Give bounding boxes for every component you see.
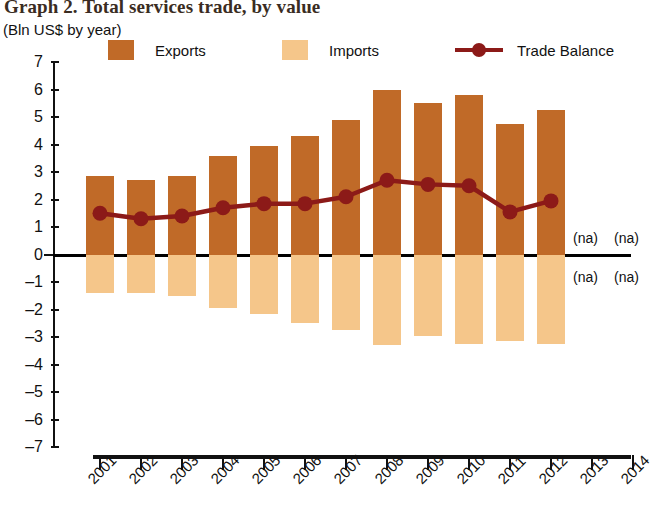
y-tick-label--7: –7 xyxy=(9,439,43,455)
chart-legend: Exports Imports Trade Balance xyxy=(0,38,644,62)
y-tick-label-2: 2 xyxy=(9,192,43,208)
legend-swatch-trade-balance xyxy=(455,40,503,60)
legend-label-imports: Imports xyxy=(329,42,379,59)
trade-balance-marker-2004 xyxy=(216,200,231,215)
trade-balance-marker-2007 xyxy=(339,189,354,204)
trade-balance-marker-2010 xyxy=(462,178,477,193)
legend-marker-dot xyxy=(472,43,486,57)
legend-label-exports: Exports xyxy=(155,42,206,59)
y-tick-label-4: 4 xyxy=(9,137,43,153)
trade-balance-marker-2006 xyxy=(298,196,313,211)
trade-balance-polyline xyxy=(100,180,551,219)
trade-balance-marker-2009 xyxy=(421,177,436,192)
y-tick-label-6: 6 xyxy=(9,82,43,98)
chart-plot-area: 76543210–1–2–3–4–5–6–7 (na)(na)(na)(na) xyxy=(53,62,631,447)
y-tick-label-5: 5 xyxy=(9,109,43,125)
trade-balance-marker-2002 xyxy=(134,211,149,226)
na-label-2013-above-zero: (na) xyxy=(573,230,598,246)
y-tick-label-3: 3 xyxy=(9,164,43,180)
na-label-2014-below-zero: (na) xyxy=(614,269,639,285)
legend-item-imports: Imports xyxy=(282,38,379,62)
y-tick-label-7: 7 xyxy=(9,54,43,70)
y-tick-label--5: –5 xyxy=(9,384,43,400)
y-tick-label--2: –2 xyxy=(9,302,43,318)
y-tick-label--1: –1 xyxy=(9,274,43,290)
na-label-2014-above-zero: (na) xyxy=(614,230,639,246)
y-tick-label--3: –3 xyxy=(9,329,43,345)
y-tick-label-1: 1 xyxy=(9,219,43,235)
page-title: Graph 2. Total services trade, by value xyxy=(4,0,320,18)
trade-balance-marker-2008 xyxy=(380,173,395,188)
legend-swatch-imports xyxy=(282,40,308,60)
y-tick-label--6: –6 xyxy=(9,412,43,428)
y-tick-label--4: –4 xyxy=(9,357,43,373)
trade-balance-marker-2012 xyxy=(544,193,559,208)
trade-balance-marker-2003 xyxy=(175,209,190,224)
trade-balance-line xyxy=(53,62,631,447)
chart-subtitle: (Bln US$ by year) xyxy=(3,21,121,38)
trade-balance-marker-2001 xyxy=(93,206,108,221)
trade-balance-marker-2011 xyxy=(503,204,518,219)
legend-item-trade-balance: Trade Balance xyxy=(455,38,614,62)
y-tick-label-0: 0 xyxy=(9,247,43,263)
legend-item-exports: Exports xyxy=(108,38,206,62)
legend-swatch-exports xyxy=(108,40,134,60)
trade-balance-marker-2005 xyxy=(257,196,272,211)
legend-label-trade-balance: Trade Balance xyxy=(517,42,614,59)
na-label-2013-below-zero: (na) xyxy=(573,269,598,285)
